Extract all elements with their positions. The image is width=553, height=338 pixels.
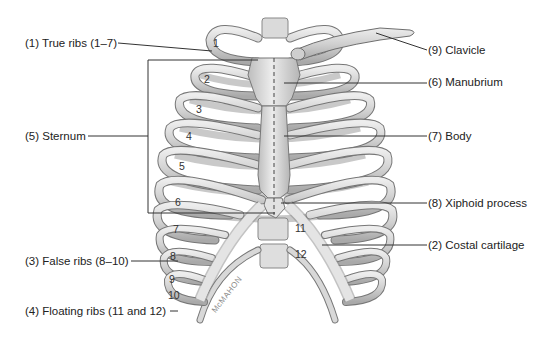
rib-number-5: 5 bbox=[179, 160, 185, 172]
rib-number-1: 1 bbox=[213, 37, 219, 49]
label-xiphoid-process: (8) Xiphoid process bbox=[428, 196, 527, 210]
rib-number-9: 9 bbox=[169, 273, 175, 285]
rib-number-2: 2 bbox=[204, 73, 210, 85]
vertebrae bbox=[258, 218, 288, 268]
label-manubrium: (6) Manubrium bbox=[428, 75, 503, 89]
label-clavicle: (9) Clavicle bbox=[428, 43, 486, 57]
rib-number-10: 10 bbox=[168, 289, 180, 301]
rib-number-8: 8 bbox=[170, 250, 176, 262]
label-sternum: (5) Sternum bbox=[25, 129, 86, 143]
rib-number-6: 6 bbox=[175, 196, 181, 208]
rib-number-4: 4 bbox=[186, 130, 192, 142]
rib-number-12: 12 bbox=[295, 248, 307, 260]
vertebra-t1 bbox=[262, 18, 288, 38]
thoracic-cage-diagram: (1) True ribs (1–7) (5) Sternum (3) Fals… bbox=[0, 0, 553, 338]
label-costal-cartilage: (2) Costal cartilage bbox=[428, 238, 525, 252]
rib-number-7: 7 bbox=[173, 223, 179, 235]
label-false-ribs: (3) False ribs (8–10) bbox=[25, 254, 129, 268]
label-body: (7) Body bbox=[428, 129, 471, 143]
rib-number-11: 11 bbox=[295, 222, 306, 234]
label-floating-ribs: (4) Floating ribs (11 and 12) bbox=[25, 304, 166, 318]
label-true-ribs: (1) True ribs (1–7) bbox=[25, 36, 117, 50]
rib-number-3: 3 bbox=[196, 103, 202, 115]
